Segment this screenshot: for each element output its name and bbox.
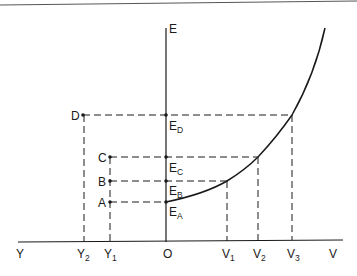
point-b	[108, 179, 112, 183]
tick-v3: V3	[287, 247, 300, 263]
energy-diagram: E V Y O D C B A ED EC EB EA Y2 Y1 V1 V2 …	[0, 0, 357, 276]
label-ec: EC	[169, 161, 183, 177]
tick-v2: V2	[253, 247, 266, 263]
e-axis-label: E	[169, 22, 177, 36]
label-c: C	[98, 151, 107, 165]
label-a: A	[98, 196, 106, 210]
label-b: B	[98, 175, 106, 189]
origin-label: O	[163, 247, 172, 261]
point-eb	[164, 179, 168, 183]
horizontal-axis	[18, 240, 343, 242]
tick-y1: Y1	[104, 247, 117, 263]
top-border-rule	[0, 1, 357, 5]
label-d: D	[71, 109, 80, 123]
point-c	[108, 155, 112, 159]
point-ed	[164, 113, 168, 117]
point-ea	[164, 200, 168, 204]
v-axis-label: V	[329, 247, 337, 261]
point-d	[81, 113, 85, 117]
tick-y2: Y2	[77, 247, 90, 263]
energy-curve	[166, 28, 325, 202]
y-axis-label: Y	[16, 247, 24, 261]
tick-v1: V1	[222, 247, 235, 263]
point-ec	[164, 155, 168, 159]
label-ed: ED	[169, 119, 183, 135]
label-ea: EA	[169, 205, 183, 221]
point-a	[108, 200, 112, 204]
label-eb: EB	[169, 184, 183, 200]
